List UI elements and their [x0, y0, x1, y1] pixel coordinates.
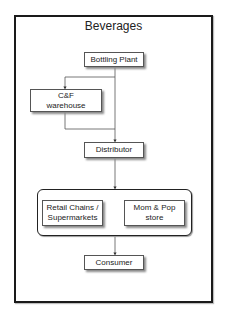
node-retail-chains: Retail Chains / Supermarkets [42, 200, 103, 226]
node-mom-pop-store-label: Mom & Pop store [134, 203, 176, 223]
node-distributor-label: Distributor [96, 145, 132, 155]
node-consumer-label: Consumer [96, 258, 133, 268]
node-distributor: Distributor [84, 142, 144, 158]
diagram-canvas: Beverages Bottling Plant C&F warehouse D… [0, 0, 227, 315]
diagram-title: Beverages [14, 19, 213, 33]
node-cf-warehouse: C&F warehouse [30, 89, 102, 112]
node-bottling-plant: Bottling Plant [84, 52, 144, 67]
node-bottling-plant-label: Bottling Plant [90, 55, 137, 65]
node-consumer: Consumer [84, 255, 144, 270]
node-retail-chains-label: Retail Chains / Supermarkets [46, 203, 98, 223]
node-mom-pop-store: Mom & Pop store [124, 200, 185, 226]
node-cf-warehouse-label: C&F warehouse [46, 91, 85, 111]
